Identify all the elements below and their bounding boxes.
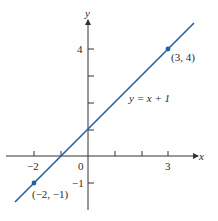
origin-label: 0	[78, 160, 84, 172]
y-ticks	[88, 49, 94, 183]
y-tick-label-4: 4	[77, 43, 83, 55]
point-label-neg2-neg1: (−2, −1)	[32, 188, 69, 201]
x-tick-label-neg2: −2	[27, 160, 39, 172]
y-tick-label-neg1: −1	[72, 177, 84, 189]
point-3-4	[166, 47, 171, 52]
y-axis-label: y	[84, 7, 90, 19]
x-axis-label: x	[198, 150, 204, 162]
line-graph: y x 4 −1 −2 3 0 y = x + 1 (3, 4) (−2, −1…	[0, 0, 218, 221]
equation-label: y = x + 1	[128, 92, 170, 104]
point-label-3-4: (3, 4)	[171, 51, 195, 64]
point-neg2-neg1	[32, 181, 37, 186]
x-tick-label-3: 3	[165, 160, 171, 172]
x-ticks	[34, 151, 168, 156]
